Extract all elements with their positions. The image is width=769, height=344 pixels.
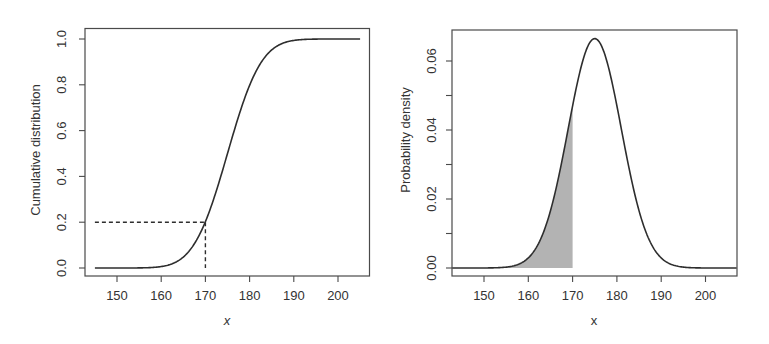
x-tick-label: 160 [517,288,539,303]
pdf-x-axis-title: x [591,313,598,328]
y-tick-label: 0.02 [424,186,439,211]
y-tick-label: 1.0 [54,30,69,48]
pdf-panel: 150160170180190200 0.000.020.040.06 x Pr… [398,30,737,328]
x-tick-label: 170 [562,288,584,303]
x-tick-label: 160 [150,288,172,303]
y-tick-label: 0.2 [54,213,69,231]
cdf-panel: 150160170180190200 0.00.20.40.60.81.0 x … [28,29,370,329]
pdf-curve [452,39,737,268]
y-tick-label: 0.06 [424,48,439,73]
y-tick-label: 0.8 [54,76,69,94]
x-tick-label: 150 [473,288,495,303]
cdf-y-axis-title: Cumulative distribution [28,84,43,216]
pdf-x-axis: 150160170180190200 [473,276,716,303]
pdf-frame [452,30,737,276]
pdf-y-axis: 0.000.020.040.06 [424,48,452,280]
cdf-x-axis-title: x [223,313,231,328]
x-tick-label: 190 [650,288,672,303]
y-tick-label: 0.00 [424,255,439,280]
pdf-plot-area [452,39,737,268]
x-tick-label: 180 [239,288,261,303]
figure: 150160170180190200 0.00.20.40.60.81.0 x … [0,0,769,344]
y-tick-label: 0.6 [54,122,69,140]
cdf-y-axis: 0.00.20.40.60.81.0 [54,30,85,277]
x-tick-label: 200 [695,288,717,303]
x-tick-label: 180 [606,288,628,303]
pdf-y-axis-title: Probability density [398,87,413,193]
y-tick-label: 0.0 [54,259,69,277]
x-tick-label: 190 [283,288,305,303]
pdf-shaded-area [452,106,572,268]
x-tick-label: 170 [195,288,217,303]
x-tick-label: 150 [106,288,128,303]
y-tick-label: 0.4 [54,167,69,185]
cdf-x-axis: 150160170180190200 [106,276,349,303]
y-tick-label: 0.04 [424,117,439,142]
cdf-plot-area [95,39,360,268]
x-tick-label: 200 [327,288,349,303]
cdf-curve [95,39,360,268]
